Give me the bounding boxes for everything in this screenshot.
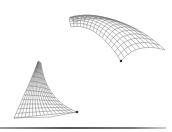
diagram-canvas: [0, 0, 172, 132]
cone-shell-mesh: [14, 62, 77, 119]
cone-corner-node: [76, 111, 79, 114]
vault-corner-node: [120, 60, 123, 63]
vault-shell-mesh: [69, 15, 165, 61]
horizontal-rule: [0, 127, 166, 129]
wireframe-figure: [0, 0, 172, 132]
